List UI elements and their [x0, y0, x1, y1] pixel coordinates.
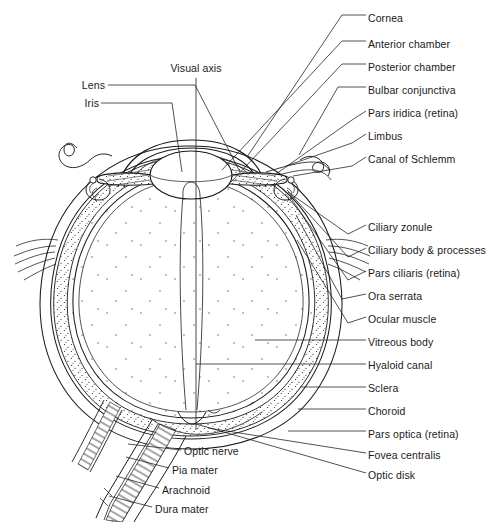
eye-anatomy-figure: Visual axis Lens Iris Cornea Anterior ch… — [0, 0, 490, 522]
leader-canal-of-schlemm-extension — [293, 166, 352, 176]
conjunctival-fornix-left — [59, 143, 112, 167]
label-bulbar-conjunctiva: Bulbar conjunctiva — [368, 84, 456, 96]
label-iris: Iris — [33, 97, 99, 109]
label-anterior-chamber: Anterior chamber — [368, 38, 450, 50]
label-limbus: Limbus — [368, 130, 402, 142]
leader-bulbar-conjunctiva-extension — [299, 87, 338, 155]
leader-anterior-chamber-extension — [222, 41, 342, 170]
label-pars-optica: Pars optica (retina) — [368, 428, 459, 440]
label-optic-nerve: Optic nerve — [184, 445, 239, 457]
label-vitreous-body: Vitreous body — [368, 336, 433, 348]
label-pia-mater: Pia mater — [172, 464, 218, 476]
label-cornea: Cornea — [368, 12, 403, 24]
leader-posterior-chamber-extension — [231, 64, 342, 182]
label-pars-iridica: Pars iridica (retina) — [368, 107, 458, 119]
label-optic-disk: Optic disk — [368, 469, 415, 481]
label-canal-of-schlemm: Canal of Schlemm — [368, 153, 455, 165]
leader-ciliary-zonule — [348, 225, 366, 234]
label-choroid: Choroid — [368, 405, 405, 417]
label-arachnoid: Arachnoid — [162, 484, 210, 496]
label-fovea-centralis: Fovea centralis — [368, 449, 441, 461]
label-hyaloid-canal: Hyaloid canal — [368, 359, 432, 371]
label-dura-mater: Dura mater — [155, 503, 209, 515]
label-ciliary-body-processes: Ciliary body & processes — [368, 244, 486, 256]
leader-canal-of-schlemm — [352, 157, 366, 166]
leader-ora-serrata — [342, 294, 366, 299]
lens-body — [150, 151, 232, 199]
visual-axis-label: Visual axis — [164, 62, 228, 74]
label-lens: Lens — [33, 79, 105, 91]
label-pars-ciliaris: Pars ciliaris (retina) — [368, 267, 460, 279]
leader-pars-iridica — [352, 111, 366, 120]
ocular-muscle-left-fibers — [14, 239, 58, 280]
canal-of-schlemm-right — [288, 177, 294, 183]
label-ocular-muscle: Ocular muscle — [368, 313, 436, 325]
leader-ocular-muscle — [348, 317, 366, 323]
leader-limbus — [352, 134, 366, 143]
label-ciliary-zonule: Ciliary zonule — [368, 221, 432, 233]
leader-cornea-extension — [247, 15, 342, 157]
label-posterior-chamber: Posterior chamber — [368, 61, 455, 73]
label-sclera: Sclera — [368, 382, 398, 394]
canal-of-schlemm-left — [90, 177, 96, 183]
label-ora-serrata: Ora serrata — [368, 290, 422, 302]
